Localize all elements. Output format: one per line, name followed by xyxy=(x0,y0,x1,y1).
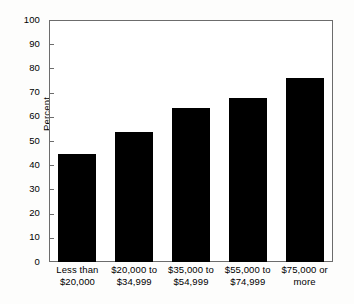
y-axis-tick-label: 50 xyxy=(29,135,40,146)
y-axis-tick-label: 0 xyxy=(35,256,40,267)
x-axis-category-label: Less than$20,000 xyxy=(45,264,109,287)
x-axis-category-label: $75,000 ormore xyxy=(273,264,337,287)
x-axis-category-label-line: $20,000 xyxy=(45,276,109,288)
y-axis-tick-label: 80 xyxy=(29,62,40,73)
bar-column xyxy=(115,20,153,262)
y-axis-tick-label: 10 xyxy=(29,231,40,242)
x-axis-category-label-line: $74,999 xyxy=(216,276,280,288)
x-axis-category-label-line: $54,999 xyxy=(159,276,223,288)
x-axis-category-label-line: Less than xyxy=(45,264,109,276)
y-axis-tick-label: 90 xyxy=(29,38,40,49)
x-axis-category-label: $55,000 to$74,999 xyxy=(216,264,280,287)
x-axis-category-label-line: $20,000 to xyxy=(102,264,166,276)
y-axis-tick-label: 20 xyxy=(29,207,40,218)
x-axis-category-label-line: $35,000 to xyxy=(159,264,223,276)
bars-group xyxy=(49,20,333,262)
y-axis-tick-label: 70 xyxy=(29,86,40,97)
bar xyxy=(229,98,267,262)
x-axis-category-label-line: $34,999 xyxy=(102,276,166,288)
bar-column xyxy=(286,20,324,262)
bar-column xyxy=(172,20,210,262)
x-axis-category-label: $35,000 to$54,999 xyxy=(159,264,223,287)
y-axis-tick-label: 30 xyxy=(29,183,40,194)
x-axis-category-label-line: $55,000 to xyxy=(216,264,280,276)
y-axis-tick-label: 60 xyxy=(29,110,40,121)
bar xyxy=(58,154,96,262)
y-axis-tick-label: 100 xyxy=(24,14,40,25)
y-axis-tick-label: 40 xyxy=(29,159,40,170)
bar-column xyxy=(229,20,267,262)
x-axis-category-label-line: $75,000 or xyxy=(273,264,337,276)
bar xyxy=(286,78,324,262)
x-axis-category-label-line: more xyxy=(273,276,337,288)
x-axis-category-label: $20,000 to$34,999 xyxy=(102,264,166,287)
bar-chart: Percent 0102030405060708090100 Less than… xyxy=(0,0,354,304)
bar xyxy=(115,132,153,262)
bar-column xyxy=(58,20,96,262)
bar xyxy=(172,108,210,262)
x-axis-labels: Less than$20,000$20,000 to$34,999$35,000… xyxy=(49,264,333,302)
